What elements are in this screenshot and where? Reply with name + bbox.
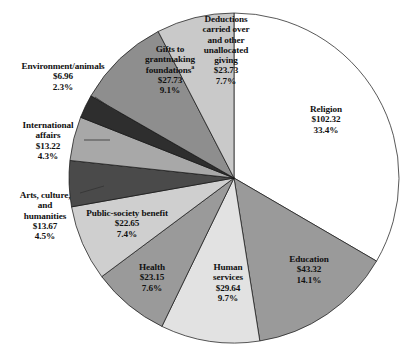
slice-label-international-affairs: International affairs $13.22 4.3% — [7, 120, 89, 161]
slice-label-human-services-value: $29.64 — [190, 283, 266, 293]
slice-label-health-percent: 7.6% — [119, 283, 185, 293]
slice-label-arts-culture-humanities-percent: 4.5% — [3, 231, 87, 241]
slice-label-human-services: Human services $29.64 9.7% — [190, 262, 266, 303]
slice-label-international-affairs-value: $13.22 — [7, 141, 89, 151]
slice-label-international-affairs-percent: 4.3% — [7, 151, 89, 161]
slice-label-deductions-value: $23.73 — [188, 65, 264, 75]
slice-label-health-name: Health — [119, 262, 185, 272]
slice-label-human-services-percent: 9.7% — [190, 293, 266, 303]
slice-label-education-name: Education — [266, 254, 352, 264]
slice-label-gifts-percent: 9.1% — [129, 85, 211, 95]
slice-label-education: Education $43.32 14.1% — [266, 254, 352, 285]
slice-label-religion: Religion $102.32 33.4% — [283, 104, 369, 135]
slice-label-education-value: $43.32 — [266, 264, 352, 274]
slice-label-religion-name: Religion — [283, 104, 369, 114]
slice-label-deductions-unallocated: Deductions carried over and other unallo… — [188, 14, 264, 86]
slice-label-arts-culture-humanities-name: Arts, culture, and humanities — [3, 190, 87, 221]
slice-label-health: Health $23.15 7.6% — [119, 262, 185, 293]
slice-label-international-affairs-name: International affairs — [7, 120, 89, 141]
slice-label-environment-animals-value: $6.96 — [8, 71, 118, 81]
pie-chart-figure: Religion $102.32 33.4% Education $43.32 … — [0, 0, 414, 361]
slice-label-environment-animals-name: Environment/animals — [8, 61, 118, 71]
slice-label-education-percent: 14.1% — [266, 275, 352, 285]
slice-label-arts-culture-humanities: Arts, culture, and humanities $13.67 4.5… — [3, 190, 87, 241]
slice-label-deductions-percent: 7.7% — [188, 76, 264, 86]
slice-label-health-value: $23.15 — [119, 272, 185, 282]
slice-label-religion-percent: 33.4% — [283, 125, 369, 135]
slice-label-human-services-name: Human services — [190, 262, 266, 283]
slice-label-deductions-name: Deductions carried over and other unallo… — [188, 14, 264, 65]
slice-label-environment-animals-percent: 2.3% — [8, 82, 118, 92]
slice-label-arts-culture-humanities-value: $13.67 — [3, 221, 87, 231]
slice-label-religion-value: $102.32 — [283, 114, 369, 124]
slice-label-environment-animals: Environment/animals $6.96 2.3% — [8, 61, 118, 92]
